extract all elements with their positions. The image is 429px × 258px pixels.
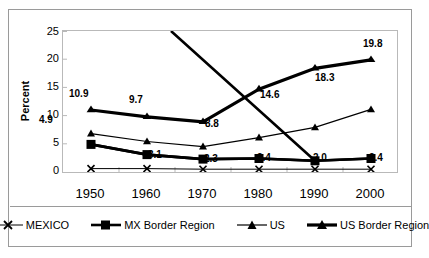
legend-item-mx-border-region[interactable]: MX Border Region: [91, 219, 215, 231]
y-tick-15: 15: [29, 81, 59, 91]
triangle-markers: [87, 105, 375, 149]
data-label-usbr-1980: 14.6: [260, 89, 279, 100]
legend-divider: [10, 206, 412, 207]
legend-item-us-border-region[interactable]: US Border Region: [307, 219, 429, 231]
chart-legend: MEXICO MX Border Region US: [9, 210, 413, 240]
triangle-marker-icon: [237, 219, 267, 231]
data-label-usbr-2000: 19.8: [363, 38, 382, 49]
series-us: [87, 105, 375, 149]
legend-item-us[interactable]: US: [237, 219, 285, 231]
chart-frame: Percent 25 20 15 10 5 0: [8, 9, 412, 247]
x-tick-1950: 1950: [60, 186, 120, 201]
data-label-mxbr-1990: 2.0: [313, 152, 327, 163]
y-tick-25: 25: [29, 26, 59, 36]
series-svg: [63, 31, 397, 172]
data-label-usbr-1950: 10.9: [69, 88, 88, 99]
x-tick-1970: 1970: [172, 186, 232, 201]
y-axis-tick-marks: [63, 32, 67, 144]
diamond-marker-icon: [307, 219, 337, 231]
legend-label-mexico: MEXICO: [26, 219, 69, 231]
x-marker-icon: [0, 219, 23, 231]
plot-area: [62, 30, 398, 173]
data-label-usbr-1960: 9.7: [129, 94, 143, 105]
data-label-mxbr-1950: 4.9: [39, 114, 53, 125]
data-label-mxbr-2000: 2.4: [369, 152, 383, 163]
legend-label-us-border-region: US Border Region: [340, 219, 429, 231]
x-tick-1960: 1960: [116, 186, 176, 201]
x-tick-2000: 2000: [340, 186, 400, 201]
data-label-usbr-1970: 8.8: [205, 118, 219, 129]
x-tick-1980: 1980: [228, 186, 288, 201]
data-label-usbr-1990: 18.3: [315, 72, 334, 83]
y-tick-5: 5: [29, 137, 59, 147]
data-label-mxbr-1970: 2.3: [204, 153, 218, 164]
data-label-mxbr-1980: 2.4: [257, 152, 271, 163]
series-us-border-region: [87, 55, 376, 124]
x-tick-1990: 1990: [284, 186, 344, 201]
legend-item-mexico[interactable]: MEXICO: [0, 219, 69, 231]
y-tick-0: 0: [29, 165, 59, 175]
y-tick-20: 20: [29, 53, 59, 63]
legend-label-us: US: [270, 219, 285, 231]
data-label-mxbr-1960: 3.1: [148, 149, 162, 160]
legend-label-mx-border-region: MX Border Region: [124, 219, 215, 231]
chart-canvas: Percent 25 20 15 10 5 0: [9, 10, 413, 248]
square-marker-icon: [91, 219, 121, 231]
